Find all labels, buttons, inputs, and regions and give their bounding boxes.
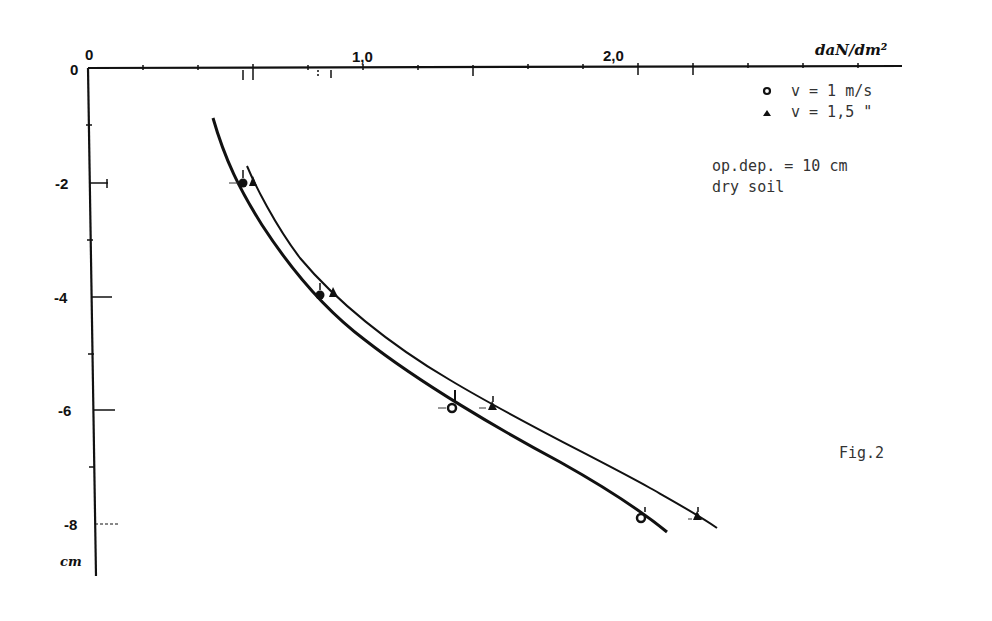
y-tick-label-8: -8 [64,516,77,533]
chart: 0 0 1,0 2,0 daN/dm² -2 -4 -6 -8 cm v = 1… [0,0,992,621]
y-axis [88,68,96,576]
legend-triangle-icon [763,110,771,116]
condition-soil: dry soil [712,178,784,196]
legend-circle-icon [764,88,770,94]
circle-marker [637,514,645,522]
x-tick-label-1: 1,0 [352,48,373,65]
curve-v1-5 [247,166,717,528]
x-axis [88,66,902,68]
series-v1-markers [229,170,645,522]
y-unit-label: cm [60,554,82,569]
y-tick-label-4: -4 [54,289,68,306]
y-tick-label-2: -2 [55,175,68,192]
triangle-marker [329,287,338,297]
triangle-marker [693,511,702,520]
legend-entry-v1: v = 1 m/s [791,82,872,100]
circle-marker [316,291,325,300]
circle-marker [239,179,248,188]
legend-entry-v1-5: v = 1,5 " [791,103,872,121]
y-origin-label: 0 [70,61,78,78]
legend: v = 1 m/s v = 1,5 " [763,82,872,121]
x-origin-label: 0 [85,46,93,63]
y-tick-label-6: -6 [58,402,71,419]
curve-v1 [213,118,667,532]
triangle-marker [249,176,257,186]
x-unit-label: daN/dm² [815,41,888,59]
series-v1-5-markers [249,176,702,520]
x-tick-label-2: 2,0 [603,47,624,64]
condition-depth: op.dep. = 10 cm [712,157,847,175]
figure-label: Fig.2 [839,444,884,462]
circle-marker [448,404,456,412]
